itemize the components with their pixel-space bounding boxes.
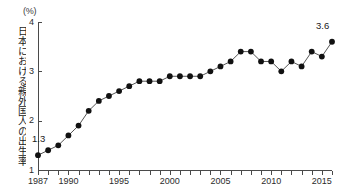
data-point-1987 — [35, 152, 41, 158]
data-point-1991 — [76, 123, 82, 129]
first-point-label: 1.3 — [32, 134, 45, 144]
chart-figure: (%) 日本における親外国人の出生率 1234 1987199019952000… — [0, 0, 338, 195]
series-polyline — [38, 42, 332, 155]
data-point-2005 — [218, 64, 224, 70]
data-point-2011 — [278, 68, 284, 74]
data-point-2003 — [197, 73, 203, 79]
data-point-1997 — [136, 78, 142, 84]
data-point-1994 — [106, 93, 112, 99]
data-point-1996 — [126, 83, 132, 89]
data-point-2015 — [319, 54, 325, 60]
data-point-1998 — [147, 78, 153, 84]
data-point-1989 — [55, 142, 61, 148]
data-point-1988 — [45, 147, 51, 153]
data-point-2001 — [177, 73, 183, 79]
data-point-2009 — [258, 59, 264, 65]
data-point-2002 — [187, 73, 193, 79]
data-point-2014 — [309, 49, 315, 55]
data-point-1990 — [66, 133, 72, 139]
data-point-2016 — [329, 39, 335, 45]
data-point-1992 — [86, 108, 92, 114]
data-point-1999 — [157, 78, 163, 84]
data-point-1995 — [116, 88, 122, 94]
data-point-2012 — [289, 59, 295, 65]
data-point-2013 — [299, 64, 305, 70]
data-point-2008 — [248, 49, 254, 55]
data-point-2010 — [268, 59, 274, 65]
data-point-2004 — [207, 68, 213, 74]
data-series-line — [0, 0, 338, 195]
data-point-1993 — [96, 98, 102, 104]
data-point-2006 — [228, 59, 234, 65]
last-point-label: 3.6 — [316, 21, 329, 31]
data-point-2000 — [167, 73, 173, 79]
data-point-2007 — [238, 49, 244, 55]
